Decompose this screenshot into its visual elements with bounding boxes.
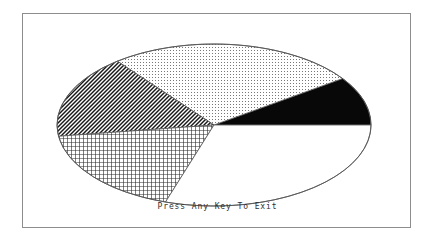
pie-slices [57,44,371,206]
application-screen: Press Any Key To Exit [0,0,433,243]
chart-frame: Press Any Key To Exit [22,13,411,228]
caption-text: Press Any Key To Exit [23,202,412,212]
pie-chart: Press Any Key To Exit [23,14,412,229]
pie-chart-svg [23,14,412,229]
